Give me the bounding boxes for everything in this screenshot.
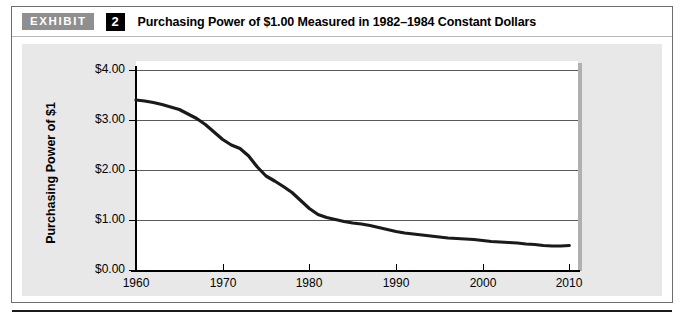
x-tick-0: [136, 264, 137, 271]
y-tick-2: [129, 170, 136, 171]
header-divider: [12, 36, 672, 37]
x-tick-2: [309, 264, 310, 271]
exhibit-tag-label: EXHIBIT: [22, 13, 94, 31]
exhibit-number-badge: 2: [106, 13, 125, 31]
x-tick-label-1: 1970: [193, 276, 253, 290]
x-tick-3: [396, 264, 397, 271]
y-tick-label-text-3: $3.00: [63, 112, 125, 126]
x-tick-label-0: 1960: [106, 276, 166, 290]
gridline-1: [136, 220, 578, 221]
x-tick-label-4: 2000: [453, 276, 513, 290]
y-axis-line: [135, 66, 137, 272]
plot-area: [136, 61, 578, 271]
y-axis-title: Purchasing Power of $1: [44, 73, 58, 273]
y-tick-1: [129, 220, 136, 221]
footer-divider: [12, 310, 672, 312]
gridline-3: [136, 120, 578, 121]
x-tick-label-3: 1990: [366, 276, 426, 290]
x-tick-1: [223, 264, 224, 271]
y-tick-label-text-0: $0.00: [63, 262, 125, 276]
y-tick-3: [129, 120, 136, 121]
y-tick-0: [129, 270, 136, 271]
y-tick-label-text-1: $1.00: [63, 212, 125, 226]
y-tick-4: [129, 70, 136, 71]
gridline-2: [136, 170, 578, 171]
y-tick-label-text-2: $2.00: [63, 162, 125, 176]
y-tick-label-text-4: $4.00: [63, 62, 125, 76]
exhibit-page: EXHIBIT 2 Purchasing Power of $1.00 Meas…: [0, 0, 684, 316]
x-tick-5: [569, 264, 570, 271]
x-tick-4: [483, 264, 484, 271]
x-axis-line: [131, 270, 580, 272]
x-tick-label-5: 2010: [539, 276, 599, 290]
gridline-4: [136, 70, 578, 71]
exhibit-title: Purchasing Power of $1.00 Measured in 19…: [138, 15, 537, 29]
exhibit-header: EXHIBIT 2 Purchasing Power of $1.00 Meas…: [12, 7, 672, 36]
x-tick-label-2: 1980: [279, 276, 339, 290]
